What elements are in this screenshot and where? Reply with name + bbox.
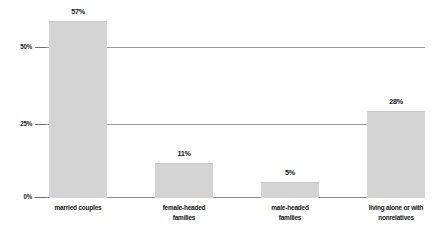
y-tick-label-0: 0% [7,193,32,200]
bar-value-male-headed-families: 5% [264,168,316,177]
category-label-line: nonrelatives [355,213,438,223]
category-label-female-headed-families: female-headed families [147,203,221,223]
bar-value-living-alone-or-with-nonrelatives: 28% [370,97,422,106]
bar-value-female-headed-families: 11% [158,149,210,158]
plot-area: 50% 25% 0% 57% married couples 11% femal… [0,0,448,245]
category-label-line: living alone or with [355,203,438,213]
bar-female-headed-families [155,163,213,198]
category-label-line: married couples [41,203,115,213]
y-tick-label-50: 50% [7,43,32,50]
bar-chart: 50% 25% 0% 57% married couples 11% femal… [0,0,448,245]
bar-value-married-couples: 57% [52,7,104,16]
category-label-living-alone-or-with-nonrelatives: living alone or with nonrelatives [355,203,438,223]
category-label-married-couples: married couples [41,203,115,213]
bar-living-alone-or-with-nonrelatives [367,111,425,198]
bar-male-headed-families [261,182,319,198]
category-label-line: female-headed [147,203,221,213]
category-label-line: male-headed [253,203,327,213]
bar-married-couples [49,21,107,198]
category-label-line: families [147,213,221,223]
category-label-male-headed-families: male-headed families [253,203,327,223]
category-label-line: families [253,213,327,223]
tick-mark-0 [35,197,46,198]
tick-mark-50 [35,47,46,48]
tick-mark-25 [35,124,46,125]
y-tick-label-25: 25% [7,120,32,127]
